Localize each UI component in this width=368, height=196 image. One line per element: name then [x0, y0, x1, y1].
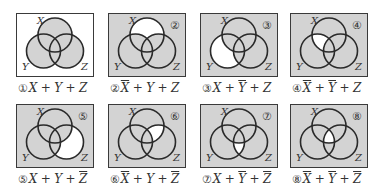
label-y: Y: [206, 61, 213, 72]
venn-panel: XYZ②: [108, 13, 186, 77]
term-x: X: [213, 172, 221, 186]
panel-caption: ②X + Y + Z: [110, 81, 179, 95]
panel-caption: ③X + Y + Z: [202, 81, 271, 95]
caption-number: ③: [202, 82, 212, 95]
term-z-complement: Z: [353, 172, 361, 186]
panel-number-tag: ③: [262, 19, 272, 32]
panel-caption: ⑥X + Y + Z: [110, 172, 179, 186]
term-y: Y: [146, 81, 154, 95]
label-z: Z: [173, 152, 180, 163]
term-y: Y: [54, 172, 62, 186]
term-x-complement: X: [303, 172, 311, 186]
label-x: X: [221, 106, 228, 117]
term-z-complement: Z: [263, 172, 271, 186]
label-x: X: [37, 106, 44, 117]
label-x: X: [37, 15, 44, 26]
term-z: Z: [353, 81, 361, 95]
label-z: Z: [265, 61, 272, 72]
caption-number: ⑦: [202, 173, 212, 186]
term-y: Y: [146, 172, 154, 186]
caption-number: ⑤: [18, 173, 28, 186]
term-z: Z: [79, 81, 87, 95]
panel-number-tag: ⑤: [78, 110, 88, 123]
venn-panel: XYZ③: [200, 13, 278, 77]
term-z-complement: Z: [79, 172, 87, 186]
panel-number-tag: ⑥: [170, 110, 180, 123]
term-y-complement: Y: [238, 172, 246, 186]
term-x: X: [29, 81, 37, 95]
caption-number: ④: [292, 82, 302, 95]
label-y: Y: [206, 152, 213, 163]
label-y: Y: [114, 61, 121, 72]
term-z: Z: [263, 81, 271, 95]
panel-caption: ⑦X + Y + Z: [202, 172, 271, 186]
label-y: Y: [296, 152, 303, 163]
caption-number: ①: [18, 82, 28, 95]
label-z: Z: [81, 61, 88, 72]
term-z: Z: [171, 81, 179, 95]
term-x-complement: X: [121, 81, 129, 95]
term-x-complement: X: [303, 81, 311, 95]
label-z: Z: [265, 152, 272, 163]
label-z: Z: [355, 61, 362, 72]
panel-caption: ⑤X + Y + Z: [18, 172, 87, 186]
panel-number-tag: ⑦: [262, 110, 272, 123]
term-y-complement: Y: [328, 81, 336, 95]
label-z: Z: [355, 152, 362, 163]
label-z: Z: [81, 152, 88, 163]
caption-number: ⑧: [292, 173, 302, 186]
label-z: Z: [173, 61, 180, 72]
label-x: X: [311, 106, 318, 117]
term-x: X: [29, 172, 37, 186]
panel-caption: ①X + Y + Z: [18, 81, 87, 95]
term-z-complement: Z: [171, 172, 179, 186]
venn-panel: XYZ⑧: [290, 104, 368, 168]
label-y: Y: [114, 152, 121, 163]
panel-number-tag: ②: [170, 19, 180, 32]
term-x: X: [213, 81, 221, 95]
panel-caption: ④X + Y + Z: [292, 81, 361, 95]
venn-panel: XYZ⑥: [108, 104, 186, 168]
term-x-complement: X: [121, 172, 129, 186]
label-x: X: [129, 15, 136, 26]
venn-panel: XYZ⑤: [16, 104, 94, 168]
caption-number: ⑥: [110, 173, 120, 186]
label-x: X: [221, 15, 228, 26]
venn-panel: XYZ④: [290, 13, 368, 77]
label-y: Y: [296, 61, 303, 72]
term-y-complement: Y: [328, 172, 336, 186]
label-x: X: [129, 106, 136, 117]
term-y-complement: Y: [238, 81, 246, 95]
term-y: Y: [54, 81, 62, 95]
label-y: Y: [22, 152, 29, 163]
caption-number: ②: [110, 82, 120, 95]
venn-panel: XYZ⑦: [200, 104, 278, 168]
label-x: X: [311, 15, 318, 26]
panel-caption: ⑧X + Y + Z: [292, 172, 361, 186]
venn-panel: XYZ: [16, 13, 94, 77]
label-y: Y: [22, 61, 29, 72]
panel-number-tag: ⑧: [352, 110, 362, 123]
panel-number-tag: ④: [352, 19, 362, 32]
